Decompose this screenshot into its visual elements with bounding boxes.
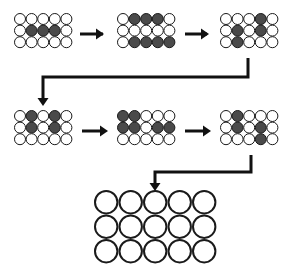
arrow-2-to-3-icon: [185, 29, 209, 40]
grid-6: [221, 111, 278, 145]
empty-circle: [193, 191, 215, 213]
empty-circle: [49, 37, 60, 48]
empty-circle: [26, 134, 37, 145]
empty-circle: [49, 14, 60, 25]
empty-circle: [61, 14, 72, 25]
empty-circle: [118, 134, 129, 145]
empty-circle: [95, 240, 117, 262]
empty-circle: [26, 14, 37, 25]
arrowhead-icon: [150, 183, 161, 191]
empty-circle: [61, 122, 72, 133]
connector-6-to-final-icon: [150, 155, 252, 191]
empty-circle: [169, 240, 191, 262]
empty-circle: [15, 134, 26, 145]
empty-circle: [152, 25, 163, 36]
filled-circle: [232, 25, 243, 36]
empty-circle: [221, 111, 232, 122]
filled-circle: [49, 122, 60, 133]
empty-circle: [244, 25, 255, 36]
empty-circle: [193, 240, 215, 262]
filled-circle: [164, 37, 175, 48]
arrow-5-to-6-icon: [185, 126, 211, 137]
filled-circle: [232, 111, 243, 122]
filled-circle: [255, 25, 266, 36]
empty-circle: [244, 134, 255, 145]
filled-circle: [255, 134, 266, 145]
filled-circle: [152, 37, 163, 48]
empty-circle: [267, 122, 278, 133]
filled-circle: [141, 14, 152, 25]
empty-circle: [232, 134, 243, 145]
empty-circle: [129, 134, 140, 145]
empty-circle: [38, 37, 49, 48]
filled-circle: [26, 25, 37, 36]
empty-circle: [15, 111, 26, 122]
empty-circle: [164, 14, 175, 25]
filled-circle: [129, 37, 140, 48]
empty-circle: [144, 191, 166, 213]
empty-circle: [61, 111, 72, 122]
arrow-1-to-2-icon: [80, 29, 104, 40]
empty-circle: [164, 111, 175, 122]
empty-circle: [267, 14, 278, 25]
diagram-canvas: [0, 0, 293, 278]
empty-circle: [244, 111, 255, 122]
empty-circle: [120, 216, 142, 238]
arrowhead-icon: [201, 29, 209, 40]
empty-circle: [164, 25, 175, 36]
empty-circle: [15, 37, 26, 48]
empty-circle: [255, 111, 266, 122]
empty-circle: [141, 122, 152, 133]
filled-circle: [232, 122, 243, 133]
empty-circle: [169, 191, 191, 213]
filled-circle: [255, 122, 266, 133]
filled-circle: [49, 25, 60, 36]
empty-circle: [244, 122, 255, 133]
empty-circle: [221, 122, 232, 133]
empty-circle: [164, 134, 175, 145]
empty-circle: [118, 25, 129, 36]
empty-circle: [144, 240, 166, 262]
empty-circle: [267, 25, 278, 36]
empty-circle: [38, 122, 49, 133]
arrowhead-icon: [100, 126, 108, 137]
filled-circle: [152, 122, 163, 133]
empty-circle: [120, 240, 142, 262]
empty-circle: [118, 14, 129, 25]
filled-circle: [118, 122, 129, 133]
grid-final: [95, 191, 215, 262]
filled-circle: [129, 111, 140, 122]
empty-circle: [221, 25, 232, 36]
empty-circle: [221, 134, 232, 145]
filled-circle: [255, 14, 266, 25]
empty-circle: [141, 25, 152, 36]
empty-circle: [244, 37, 255, 48]
empty-circle: [141, 134, 152, 145]
empty-circle: [141, 111, 152, 122]
empty-circle: [255, 37, 266, 48]
empty-circle: [15, 25, 26, 36]
filled-circle: [118, 111, 129, 122]
filled-circle: [141, 37, 152, 48]
empty-circle: [169, 216, 191, 238]
empty-circle: [38, 14, 49, 25]
empty-circle: [221, 14, 232, 25]
empty-circle: [26, 37, 37, 48]
circle-grid-sequence-diagram: [0, 0, 293, 278]
empty-circle: [15, 122, 26, 133]
grid-2: [118, 14, 175, 48]
empty-circle: [95, 191, 117, 213]
empty-circle: [61, 134, 72, 145]
arrowhead-icon: [96, 29, 104, 40]
empty-circle: [49, 134, 60, 145]
empty-circle: [267, 134, 278, 145]
filled-circle: [152, 14, 163, 25]
connector-3-to-4-icon: [38, 58, 249, 106]
arrowhead-icon: [203, 126, 211, 137]
empty-circle: [129, 25, 140, 36]
empty-circle: [244, 14, 255, 25]
filled-circle: [26, 111, 37, 122]
empty-circle: [221, 37, 232, 48]
empty-circle: [144, 216, 166, 238]
filled-circle: [38, 25, 49, 36]
